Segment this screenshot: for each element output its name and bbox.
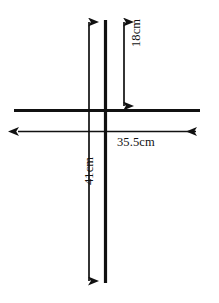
dimension-label-35-5cm: 35.5cm [117, 135, 155, 150]
figure-canvas: 18cm 35.5cm 41cm [0, 0, 219, 303]
dimension-label-41cm: 41cm [82, 157, 97, 185]
dimension-label-18cm: 18cm [129, 19, 144, 47]
diagram-svg [0, 0, 219, 303]
